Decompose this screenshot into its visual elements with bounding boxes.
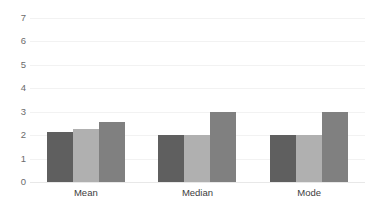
bar[interactable]	[99, 122, 125, 182]
plot-area	[30, 18, 365, 182]
bar[interactable]	[270, 135, 296, 182]
y-axis-tick-label: 1	[8, 154, 26, 164]
x-axis-category-label: Median	[142, 188, 254, 198]
y-axis-tick-label: 6	[8, 36, 26, 46]
bar[interactable]	[184, 135, 210, 182]
y-axis-tick-label: 3	[8, 107, 26, 117]
y-axis-tick-label: 2	[8, 130, 26, 140]
bar-group	[30, 18, 142, 182]
bar[interactable]	[158, 135, 184, 182]
y-axis-tick-label: 0	[8, 177, 26, 187]
y-axis-tick-label: 4	[8, 83, 26, 93]
y-axis-tick-label: 5	[8, 60, 26, 70]
x-axis-category-label: Mean	[30, 188, 142, 198]
bar[interactable]	[47, 132, 73, 182]
bar[interactable]	[73, 129, 99, 182]
bar[interactable]	[296, 135, 322, 182]
x-axis-category-label: Mode	[253, 188, 365, 198]
bar-group	[142, 18, 254, 182]
gridline-0	[30, 182, 365, 183]
bar[interactable]	[210, 112, 236, 182]
bar-group	[253, 18, 365, 182]
bars-layer	[30, 18, 365, 182]
bar[interactable]	[322, 112, 348, 182]
bar-chart: 01234567 MeanMedianMode	[0, 0, 373, 217]
y-axis-tick-label: 7	[8, 13, 26, 23]
